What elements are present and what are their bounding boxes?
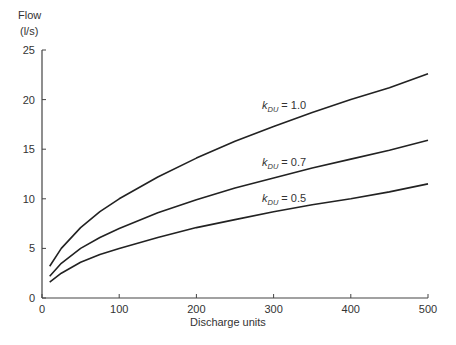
- curve-label-2: kDU= 0.5: [262, 192, 306, 207]
- y-tick-label: 20: [23, 94, 35, 106]
- y-tick-label: 5: [29, 242, 35, 254]
- x-tick-label: 200: [187, 303, 205, 315]
- curve-label-0: kDU= 1.0: [262, 99, 306, 114]
- x-tick-label: 100: [110, 303, 128, 315]
- y-axis-label-line2: (l/s): [20, 25, 38, 37]
- curve-2: [50, 184, 428, 282]
- curve-labels: kDU= 1.0kDU= 0.7kDU= 0.5: [262, 99, 306, 207]
- x-axis-label: Discharge units: [190, 316, 266, 328]
- x-tick-label: 500: [419, 303, 437, 315]
- chart: 01002003004005000510152025 kDU= 1.0kDU= …: [0, 0, 456, 345]
- y-tick-label: 0: [29, 292, 35, 304]
- y-tick-label: 10: [23, 193, 35, 205]
- x-tick-label: 0: [39, 303, 45, 315]
- curve-label-1: kDU= 0.7: [262, 156, 306, 171]
- curve-0: [50, 74, 428, 266]
- axes: 01002003004005000510152025: [23, 44, 437, 315]
- x-tick-label: 300: [264, 303, 282, 315]
- x-tick-label: 400: [342, 303, 360, 315]
- y-tick-label: 15: [23, 143, 35, 155]
- curves: [50, 74, 428, 282]
- y-tick-label: 25: [23, 44, 35, 56]
- y-axis-label-line1: Flow: [18, 9, 41, 21]
